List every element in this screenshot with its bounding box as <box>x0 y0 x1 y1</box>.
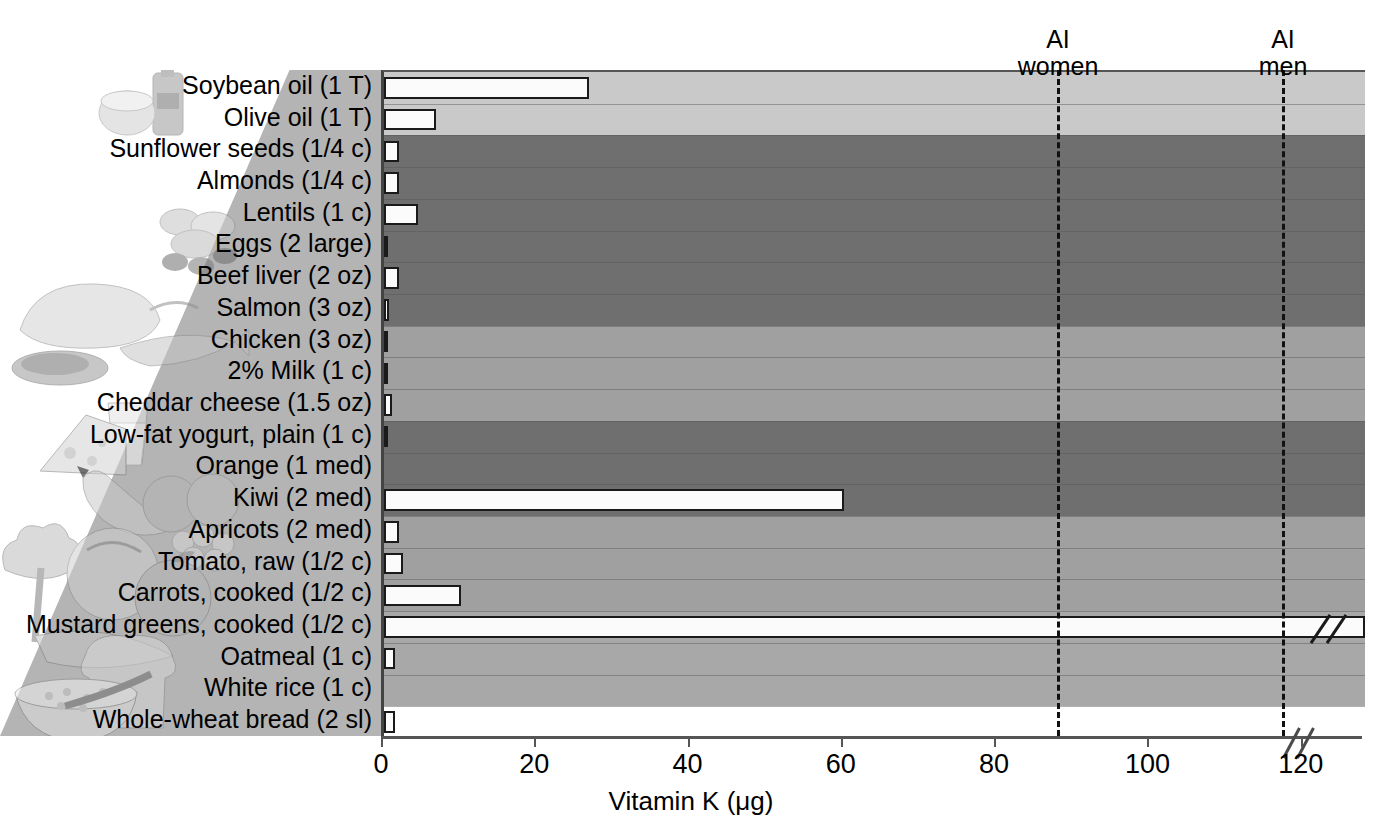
bar <box>384 711 395 733</box>
bar <box>384 204 418 226</box>
category-label: 2% Milk (1 c) <box>0 358 372 383</box>
ai-women-label-line2: women <box>978 53 1138 80</box>
x-tick-label: 0 <box>341 749 421 780</box>
x-tick <box>994 736 996 747</box>
category-label: Orange (1 med) <box>0 453 372 478</box>
x-tick-label: 120 <box>1261 749 1341 780</box>
x-axis <box>381 736 1362 739</box>
category-label: Kiwi (2 med) <box>0 485 372 510</box>
row-divider <box>384 548 1365 549</box>
ai-men-line <box>1282 70 1285 736</box>
row-divider <box>384 453 1365 454</box>
group-band-dairy <box>384 326 1365 421</box>
row-divider <box>384 579 1365 580</box>
x-tick-label: 100 <box>1107 749 1187 780</box>
category-label: Eggs (2 large) <box>0 231 372 256</box>
x-tick <box>1147 736 1149 747</box>
ai-women-label-line1: AI <box>978 26 1138 53</box>
category-label: Mustard greens, cooked (1/2 c) <box>0 612 372 637</box>
x-tick <box>688 736 690 747</box>
ai-men-label-line1: AI <box>1203 26 1363 53</box>
category-label: White rice (1 c) <box>0 675 372 700</box>
x-tick <box>381 736 383 747</box>
bar <box>384 585 461 607</box>
bar <box>384 267 399 289</box>
bar <box>384 172 399 194</box>
group-band-veg <box>384 516 1365 611</box>
category-label: Chicken (3 oz) <box>0 327 372 352</box>
plot-area <box>381 70 1365 738</box>
row-divider <box>384 357 1365 358</box>
category-label: Low-fat yogurt, plain (1 c) <box>0 422 372 447</box>
bar <box>384 426 388 448</box>
x-tick-label: 60 <box>801 749 881 780</box>
bar <box>384 489 844 511</box>
row-divider <box>384 262 1365 263</box>
row-divider <box>384 706 1365 707</box>
category-label: Carrots, cooked (1/2 c) <box>0 580 372 605</box>
bar <box>384 299 389 321</box>
x-axis-title: Vitamin K (μg) <box>0 786 1382 817</box>
ai-women-label: AI women <box>978 26 1138 80</box>
row-divider <box>384 516 1365 517</box>
x-tick <box>841 736 843 747</box>
category-label: Almonds (1/4 c) <box>0 168 372 193</box>
category-label: Whole-wheat bread (2 sl) <box>0 707 372 732</box>
ai-women-line <box>1057 70 1060 736</box>
row-divider <box>384 104 1365 105</box>
bar <box>384 616 1365 638</box>
bar <box>384 553 403 575</box>
row-divider <box>384 231 1365 232</box>
vitamin-k-chart: AI women AI men Vitamin K (μg) Soybean o… <box>0 0 1382 828</box>
category-label: Soybean oil (1 T) <box>0 73 372 98</box>
category-label: Cheddar cheese (1.5 oz) <box>0 390 372 415</box>
row-divider <box>384 675 1365 676</box>
row-divider <box>384 484 1365 485</box>
bar <box>384 141 399 163</box>
category-label: Tomato, raw (1/2 c) <box>0 549 372 574</box>
row-divider <box>384 294 1365 295</box>
row-divider <box>384 199 1365 200</box>
category-label: Olive oil (1 T) <box>0 105 372 130</box>
category-label: Sunflower seeds (1/4 c) <box>0 136 372 161</box>
bar <box>384 521 399 543</box>
category-label: Apricots (2 med) <box>0 517 372 542</box>
bar <box>384 648 395 670</box>
category-label: Lentils (1 c) <box>0 200 372 225</box>
ai-men-label: AI men <box>1203 26 1363 80</box>
row-divider <box>384 611 1365 612</box>
bar <box>384 363 388 385</box>
ai-men-label-line2: men <box>1203 53 1363 80</box>
category-label: Beef liver (2 oz) <box>0 263 372 288</box>
bar <box>384 331 388 353</box>
category-label: Salmon (3 oz) <box>0 295 372 320</box>
row-divider <box>384 135 1365 136</box>
row-divider <box>384 326 1365 327</box>
bar <box>384 394 392 416</box>
x-tick-label: 80 <box>954 749 1034 780</box>
row-divider <box>384 389 1365 390</box>
bar <box>384 109 436 131</box>
category-label: Oatmeal (1 c) <box>0 644 372 669</box>
bar <box>384 236 388 258</box>
row-divider <box>384 167 1365 168</box>
x-tick <box>1301 736 1303 747</box>
row-divider <box>384 643 1365 644</box>
bar <box>384 77 589 99</box>
x-tick <box>534 736 536 747</box>
x-tick-label: 40 <box>648 749 728 780</box>
x-tick-label: 20 <box>494 749 574 780</box>
row-divider <box>384 421 1365 422</box>
